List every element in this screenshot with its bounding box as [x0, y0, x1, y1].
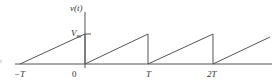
y-axis-label: v(t) [70, 4, 83, 13]
tick-label-minus-t: −T [14, 70, 25, 79]
x-axis-label: t [0, 58, 2, 65]
peak-label-sub: m [77, 33, 81, 39]
sawtooth-waveform [20, 34, 270, 64]
peak-label: Vm [71, 29, 81, 39]
tick-label-t: T [146, 70, 151, 79]
tick-label-zero: 0 [72, 70, 77, 79]
tick-label-2t: 2T [207, 70, 217, 79]
sawtooth-diagram [0, 0, 279, 84]
